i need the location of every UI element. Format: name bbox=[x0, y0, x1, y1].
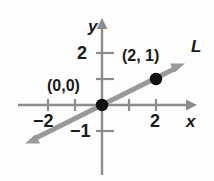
line-label-L: L bbox=[191, 38, 201, 55]
y-axis-label: y bbox=[88, 18, 97, 35]
x-tick-label-minus2: −2 bbox=[33, 112, 54, 130]
y-tick-label-minus1: −1 bbox=[70, 122, 91, 140]
point-label-2-1: (2, 1) bbox=[122, 48, 159, 64]
point-label-origin: (0,0) bbox=[47, 78, 80, 94]
x-tick-label-2: 2 bbox=[150, 112, 160, 130]
y-axis-ticks bbox=[96, 53, 114, 131]
y-tick-label-2: 2 bbox=[77, 44, 87, 62]
point-2-1 bbox=[150, 73, 162, 85]
y-axis-arrow-icon bbox=[97, 18, 108, 29]
x-axis-arrow-icon bbox=[186, 100, 197, 111]
x-axis-label: x bbox=[186, 113, 195, 130]
axes-group bbox=[18, 18, 197, 175]
coordinate-plane-figure: y x 2 −1 −2 2 (0,0) (2, 1) L bbox=[0, 0, 214, 181]
point-origin bbox=[96, 99, 108, 111]
graph-canvas bbox=[0, 0, 214, 181]
